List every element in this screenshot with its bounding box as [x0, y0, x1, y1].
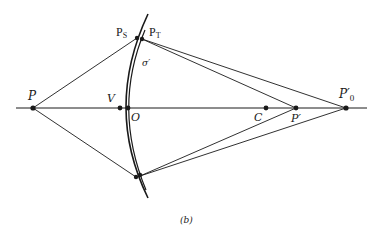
- point-PT: [140, 37, 144, 41]
- figure-caption: (b): [180, 215, 193, 225]
- point-V: [118, 106, 123, 111]
- ray-P-to-PS: [33, 38, 137, 108]
- label-P-prime-0-sub: 0: [350, 93, 355, 103]
- label-PT: PT: [149, 25, 161, 40]
- ray-P-to-lower: [33, 108, 136, 177]
- point-P-prime: [294, 106, 299, 111]
- label-PS: PS: [116, 25, 127, 40]
- label-P-prime-0: P′0: [338, 87, 355, 103]
- ray-lower-to-Pprime: [140, 108, 296, 176]
- ray-lower-to-Pprime0: [140, 108, 346, 176]
- wavefront-sigma-arc: [129, 30, 146, 190]
- ray-PT-to-Pprime0: [142, 39, 346, 108]
- label-PS-sub: S: [123, 31, 127, 40]
- label-O: O: [131, 111, 140, 124]
- point-PT-lower: [138, 173, 142, 177]
- point-P: [30, 105, 35, 110]
- label-sigma-prime: σ′: [142, 58, 150, 68]
- ray-PT-to-Pprime: [142, 39, 296, 108]
- label-PT-sub: T: [156, 31, 161, 40]
- point-O: [126, 106, 131, 111]
- label-P: P: [27, 89, 37, 103]
- point-PS-lower: [134, 175, 138, 179]
- point-C: [264, 106, 269, 111]
- label-P-prime: P′: [290, 112, 301, 125]
- label-P-prime-0-main: P′: [338, 87, 350, 101]
- optics-diagram: P V O C P′ P′0 PS PT σ′ (b): [0, 0, 383, 231]
- label-C: C: [254, 111, 263, 124]
- label-V: V: [107, 92, 116, 105]
- point-PS: [135, 36, 139, 40]
- point-P-prime-0: [343, 105, 348, 110]
